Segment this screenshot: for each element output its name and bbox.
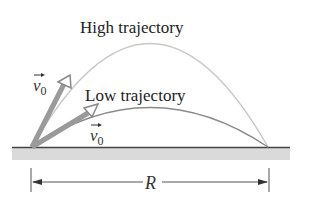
range-label: R bbox=[145, 174, 156, 192]
v0-high-label: v0 bbox=[33, 77, 47, 97]
low-trajectory-label: Low trajectory bbox=[85, 87, 186, 104]
ground bbox=[12, 148, 290, 160]
range-arrow-left-icon bbox=[32, 179, 42, 185]
high-trajectory-label: High trajectory bbox=[80, 19, 183, 36]
range-arrow-right-icon bbox=[258, 179, 268, 185]
v0-low-label: v0 bbox=[90, 127, 104, 147]
